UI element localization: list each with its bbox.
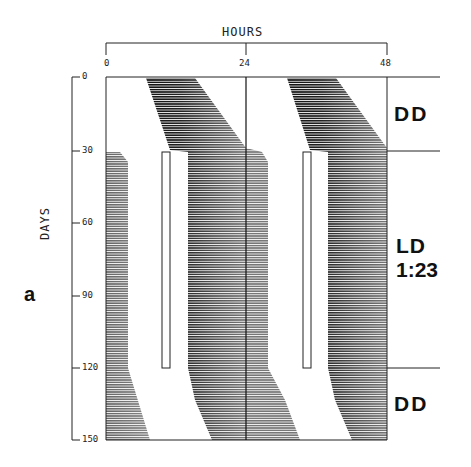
condition-label-ld-ratio: 1:23	[396, 259, 438, 281]
y-axis-title: DAYS	[38, 207, 52, 240]
x-tick-label-24: 24	[239, 58, 250, 68]
condition-label-ld: LD	[396, 235, 426, 257]
x-tick-label-48: 48	[380, 58, 391, 68]
y-tick-label-0: 0	[82, 71, 87, 81]
condition-label-dd-final: DD	[394, 393, 428, 415]
days-axis	[72, 77, 80, 440]
y-tick-label-30: 30	[82, 145, 93, 155]
y-tick-label-60: 60	[82, 217, 93, 227]
condition-label-dd-initial: DD	[394, 103, 428, 125]
y-tick-label-120: 120	[82, 362, 98, 372]
x-tick-label-0: 0	[104, 58, 109, 68]
x-axis-title: HOURS	[222, 25, 263, 39]
hours-axis	[106, 43, 387, 55]
light-pulse-marker-right	[303, 152, 311, 368]
light-pulse-marker-left	[162, 152, 170, 368]
y-tick-label-150: 150	[82, 434, 98, 444]
y-tick-label-90: 90	[82, 290, 93, 300]
panel-label: a	[24, 283, 35, 306]
